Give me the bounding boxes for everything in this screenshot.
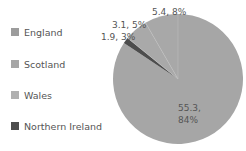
data-label-scotland: 5.4, 8% (152, 7, 187, 17)
data-label-wales: 3.1, 5% (112, 20, 147, 30)
pie-chart: 5.4, 8% 3.1, 5% 1.9, 3% 55.3, 84% (0, 0, 246, 151)
data-label-northern-ireland: 1.9, 3% (101, 32, 136, 42)
data-label-england-value: 55.3, (178, 103, 201, 113)
data-label-england-percent: 84% (178, 115, 198, 125)
